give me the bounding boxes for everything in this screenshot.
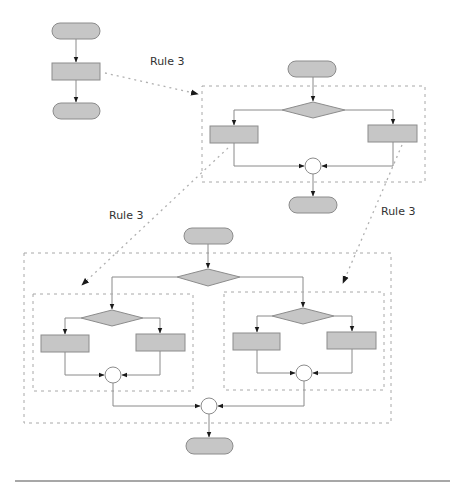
flow-arrow bbox=[257, 350, 295, 373]
end-terminal bbox=[186, 438, 233, 454]
flow-arrow bbox=[240, 277, 303, 307]
flow-arrow bbox=[313, 349, 352, 373]
flow-arrow bbox=[218, 381, 304, 406]
flow-arrow bbox=[322, 142, 393, 166]
flow-arrow bbox=[112, 277, 177, 309]
flow-arrow bbox=[257, 316, 272, 332]
flow-arrow bbox=[65, 352, 104, 375]
flow-arrow bbox=[122, 351, 160, 375]
decision-diamond bbox=[177, 269, 240, 286]
join-connector bbox=[305, 158, 321, 174]
process-block-right bbox=[136, 334, 185, 351]
stage-original bbox=[52, 23, 100, 119]
join-connector bbox=[201, 398, 217, 414]
stage-after-second-rule bbox=[24, 228, 391, 454]
end-terminal bbox=[289, 197, 337, 213]
rule-label-left: Rule 3 bbox=[109, 209, 143, 222]
stage-after-first-rule bbox=[202, 61, 425, 213]
start-terminal bbox=[184, 228, 233, 244]
process-block-left bbox=[41, 335, 89, 352]
end-terminal bbox=[53, 103, 100, 119]
flow-arrow bbox=[345, 110, 393, 124]
flow-arrow bbox=[65, 318, 81, 334]
start-terminal bbox=[288, 61, 336, 77]
inner-group-right bbox=[224, 292, 384, 390]
flow-arrow bbox=[334, 316, 352, 331]
rule-label-right: Rule 3 bbox=[381, 205, 415, 218]
join-connector bbox=[296, 365, 312, 381]
process-block bbox=[52, 63, 100, 80]
decision-diamond bbox=[81, 310, 143, 326]
start-terminal bbox=[52, 23, 100, 39]
process-block-left bbox=[210, 126, 258, 143]
join-connector bbox=[105, 367, 121, 383]
flow-arrow bbox=[113, 383, 200, 406]
rule-label-top: Rule 3 bbox=[150, 55, 184, 68]
flowchart-diagram: Rule 3 Rule 3 Rule 3 bbox=[0, 0, 450, 483]
rule-transform-arrow bbox=[105, 73, 198, 94]
rule-transform-arrow-left bbox=[82, 148, 228, 285]
process-block-right bbox=[327, 332, 376, 349]
process-block-right bbox=[368, 125, 417, 142]
flow-arrow bbox=[234, 143, 304, 166]
flow-arrow bbox=[143, 318, 160, 333]
inner-group-left bbox=[33, 294, 193, 391]
decision-diamond bbox=[272, 308, 334, 324]
process-block-left bbox=[233, 333, 280, 350]
flow-arrow bbox=[234, 110, 282, 125]
decision-diamond bbox=[282, 102, 345, 118]
